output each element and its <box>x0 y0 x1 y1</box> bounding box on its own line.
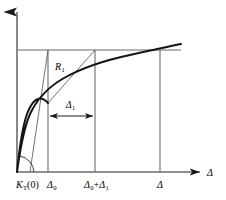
label-delta-zero-plus-delta-one: Δ0+Δ1 <box>84 180 109 191</box>
diagram-svg <box>0 0 226 200</box>
label-x-axis: Δ <box>207 168 213 178</box>
figure-canvas: KT(0) Δ0 Δ0+Δ1 Δ Δ R1 Δ1 <box>0 0 226 200</box>
label-kt-zero: KT(0) <box>16 180 39 191</box>
tangent-line-delta1 <box>48 50 95 103</box>
secant-line-r1 <box>30 50 48 172</box>
label-delta-right: Δ <box>157 180 163 190</box>
label-r-one: R1 <box>55 62 65 73</box>
driving-force-curve <box>17 44 181 172</box>
label-delta-zero: Δ0 <box>47 180 57 191</box>
label-delta-one: Δ1 <box>66 101 75 111</box>
